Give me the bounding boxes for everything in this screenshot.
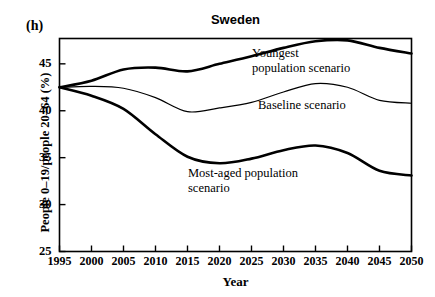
annotation-most-aged-line-1: Most-aged population xyxy=(188,166,298,181)
annotation-youngest-line-2: population scenario xyxy=(252,61,350,76)
annotation-most-aged-line-2: scenario xyxy=(188,181,298,196)
y-tick-label: 35 xyxy=(22,150,52,165)
annotation-baseline-line-1: Baseline scenario xyxy=(258,98,346,113)
annotation-youngest-line-1: Youngest xyxy=(252,46,350,61)
x-tick-label: 2050 xyxy=(392,254,432,269)
x-axis-label: Year xyxy=(59,274,412,290)
annotation-baseline-scenario: Baseline scenario xyxy=(258,98,346,113)
y-tick-label: 30 xyxy=(22,197,52,212)
annotation-youngest-scenario: Youngest population scenario xyxy=(252,46,350,76)
chart-figure: (h) Sweden People 0–19/people 20–64 (%) … xyxy=(0,0,435,297)
series-line-3 xyxy=(60,87,412,175)
y-tick-label: 40 xyxy=(22,103,52,118)
series-line-2 xyxy=(60,83,412,112)
y-tick-label: 45 xyxy=(22,56,52,71)
annotation-most-aged-scenario: Most-aged population scenario xyxy=(188,166,298,196)
plot-frame xyxy=(60,39,412,252)
plot-area xyxy=(0,0,435,297)
series-line-1 xyxy=(60,40,412,87)
